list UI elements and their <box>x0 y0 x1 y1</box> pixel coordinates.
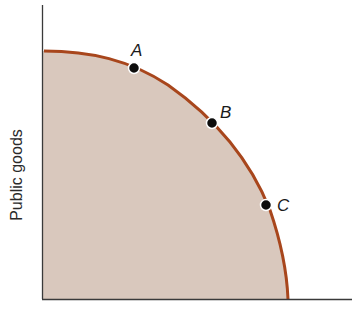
y-axis-label: Public goods <box>2 120 32 230</box>
point-c-marker <box>261 200 272 211</box>
ppf-chart: A B C Public goods <box>0 0 362 319</box>
point-a-marker <box>129 63 140 74</box>
point-b-label: B <box>220 103 231 122</box>
y-axis-label-text: Public goods <box>8 129 26 221</box>
point-c-label: C <box>277 196 290 215</box>
point-a-label: A <box>130 41 142 60</box>
chart-canvas: A B C <box>0 0 362 319</box>
point-b-marker <box>207 118 218 129</box>
